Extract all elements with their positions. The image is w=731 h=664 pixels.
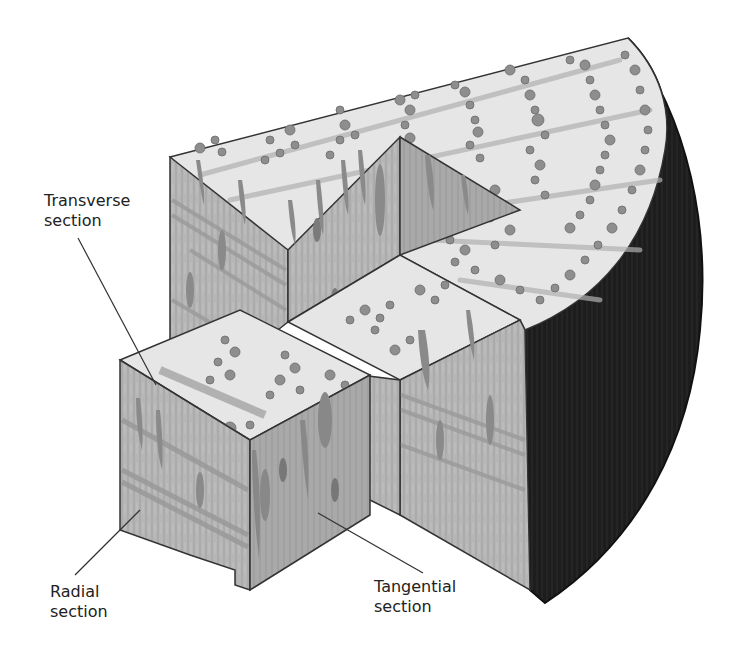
label-tangential-line1: Tangential [374,577,456,597]
label-transverse-line2: section [44,211,130,231]
label-transverse-line1: Transverse [44,191,130,211]
leader-tangential [318,513,423,573]
leader-radial [75,510,140,575]
wood-section-diagram [0,0,731,664]
leader-transverse [78,238,156,385]
label-transverse-section: Transverse section [44,191,130,231]
label-radial-section: Radial section [50,582,108,622]
label-radial-line2: section [50,602,108,622]
label-tangential-line2: section [374,597,456,617]
label-tangential-section: Tangential section [374,577,456,617]
label-radial-line1: Radial [50,582,108,602]
